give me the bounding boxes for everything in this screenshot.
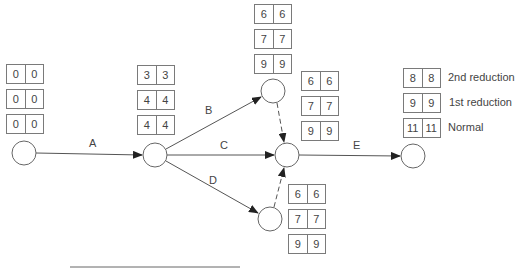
early-time: 6	[255, 5, 273, 23]
time-box-n5-2nd: 66	[288, 184, 326, 204]
early-time: 9	[404, 94, 422, 112]
early-time: 6	[289, 185, 307, 203]
time-box-n3-normal: 99	[254, 54, 292, 74]
node-3	[261, 79, 285, 103]
early-time: 0	[7, 90, 25, 108]
activity-a-arrow	[36, 153, 142, 155]
time-box-n4-2nd: 66	[301, 71, 339, 91]
time-box-n2-normal: 44	[137, 115, 175, 135]
legend-1st-reduction: 1st reduction	[449, 96, 512, 108]
late-time: 9	[320, 122, 339, 140]
late-time: 11	[422, 119, 441, 137]
time-box-n1-normal: 00	[6, 114, 44, 134]
time-box-n4-1st: 77	[301, 96, 339, 116]
activity-label-e: E	[353, 139, 360, 151]
late-time: 6	[320, 72, 339, 90]
activity-d-arrow	[166, 161, 258, 213]
node-1	[12, 141, 36, 165]
early-time: 8	[404, 69, 422, 87]
time-box-n6-1st: 99	[403, 93, 441, 113]
time-box-n2-2nd: 33	[137, 65, 175, 85]
time-box-n3-1st: 77	[254, 29, 292, 49]
activity-label-c: C	[220, 139, 228, 151]
time-box-n4-normal: 99	[301, 121, 339, 141]
late-time: 6	[273, 5, 292, 23]
late-time: 9	[307, 235, 326, 253]
node-4	[275, 143, 299, 167]
early-time: 4	[138, 116, 156, 134]
activity-label-b: B	[205, 104, 212, 116]
late-time: 6	[307, 185, 326, 203]
early-time: 0	[7, 65, 25, 83]
time-box-n1-1st: 00	[6, 89, 44, 109]
node-5	[258, 207, 282, 231]
time-box-n6-normal: 1111	[403, 118, 441, 138]
time-box-n1-2nd: 00	[6, 64, 44, 84]
late-time: 0	[25, 65, 44, 83]
early-time: 9	[255, 55, 273, 73]
early-time: 9	[302, 122, 320, 140]
late-time: 0	[25, 115, 44, 133]
time-box-n3-2nd: 66	[254, 4, 292, 24]
early-time: 3	[138, 66, 156, 84]
late-time: 3	[156, 66, 175, 84]
node-6	[401, 144, 425, 168]
late-time: 9	[422, 94, 441, 112]
late-time: 7	[307, 210, 326, 228]
legend-2nd-reduction: 2nd reduction	[448, 71, 515, 83]
late-time: 4	[156, 116, 175, 134]
activity-label-d: D	[209, 174, 217, 186]
activity-e-arrow	[299, 155, 400, 156]
time-box-n2-1st: 44	[137, 90, 175, 110]
late-time: 7	[273, 30, 292, 48]
early-time: 0	[7, 115, 25, 133]
late-time: 8	[422, 69, 441, 87]
early-time: 7	[255, 30, 273, 48]
late-time: 7	[320, 97, 339, 115]
time-box-n6-2nd: 88	[403, 68, 441, 88]
late-time: 4	[156, 91, 175, 109]
late-time: 9	[273, 55, 292, 73]
time-box-n5-1st: 77	[288, 209, 326, 229]
early-time: 9	[289, 235, 307, 253]
early-time: 6	[302, 72, 320, 90]
early-time: 4	[138, 91, 156, 109]
node-2	[143, 143, 167, 167]
late-time: 0	[25, 90, 44, 108]
early-time: 7	[302, 97, 320, 115]
dummy-activity-top	[277, 103, 284, 142]
time-box-n5-normal: 99	[288, 234, 326, 254]
early-time: 7	[289, 210, 307, 228]
dummy-activity-bottom	[274, 168, 284, 207]
activity-label-a: A	[89, 137, 96, 149]
early-time: 11	[404, 119, 422, 137]
activity-b-arrow	[166, 97, 261, 149]
legend-normal: Normal	[448, 121, 483, 133]
